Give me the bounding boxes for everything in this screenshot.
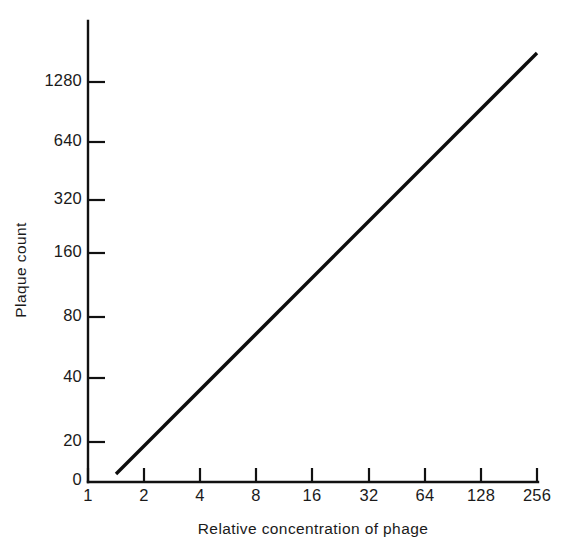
x-tick-label: 128 [467, 486, 495, 504]
y-tick-label: 320 [54, 189, 82, 207]
x-tick-label: 1 [83, 486, 92, 504]
plot-canvas: 1280 640 320 160 80 40 20 0 1 2 4 8 16 3… [0, 0, 583, 560]
y-tick-label: 160 [54, 242, 82, 260]
x-tick-label: 4 [195, 486, 204, 504]
x-tick-label: 2 [139, 486, 148, 504]
y-tick-label: 80 [63, 306, 82, 324]
chart-figure: 1280 640 320 160 80 40 20 0 1 2 4 8 16 3… [0, 0, 583, 560]
x-tick-label: 32 [360, 486, 379, 504]
x-tick-label: 16 [303, 486, 322, 504]
y-tick-label-zero: 0 [73, 470, 82, 488]
x-tick-label: 256 [523, 486, 551, 504]
y-tick-label: 640 [54, 131, 82, 149]
x-tick-label: 8 [251, 486, 260, 504]
y-axis-title: Plaque count [12, 222, 29, 318]
y-tick-label: 20 [63, 431, 82, 449]
y-tick-label: 1280 [44, 71, 82, 89]
x-axis-title: Relative concentration of phage [198, 520, 428, 537]
x-tick-label: 64 [416, 486, 435, 504]
y-tick-label: 40 [63, 367, 82, 385]
